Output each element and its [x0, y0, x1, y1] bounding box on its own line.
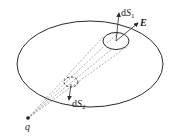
closed-surface: [17, 21, 163, 107]
flux-diagram: dS1 E dS2 q: [0, 0, 172, 139]
normal-arrow-2: [69, 84, 71, 100]
normal-arrow-1: [116, 13, 119, 41]
label-dS2: dS2: [72, 98, 86, 111]
field-arrow-E: [116, 23, 138, 41]
charge-point: [26, 116, 30, 120]
label-E: E: [139, 17, 147, 28]
label-q: q: [25, 121, 30, 132]
label-dS1: dS1: [121, 7, 135, 20]
